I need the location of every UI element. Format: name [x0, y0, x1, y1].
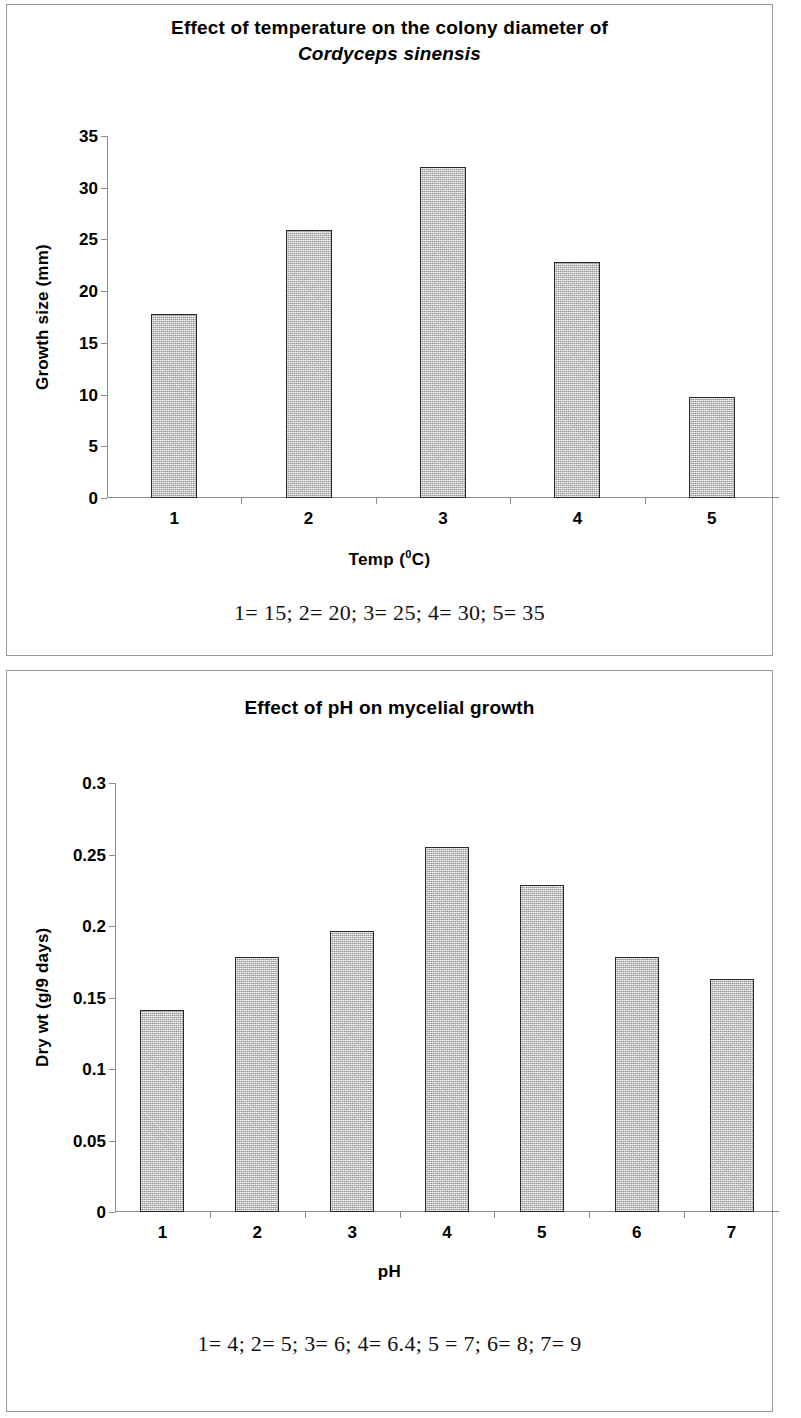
y-tick-label: 0 — [97, 1204, 106, 1221]
x-tick-mark — [305, 1212, 306, 1218]
x-tick-mark — [684, 1212, 685, 1218]
y-tick-label: 25 — [79, 231, 98, 248]
bar — [520, 885, 564, 1212]
x-tick-mark — [645, 498, 646, 504]
bar — [330, 931, 374, 1212]
y-axis-line — [115, 783, 116, 1212]
y-tick-label: 20 — [79, 283, 98, 300]
bar — [235, 957, 279, 1212]
y-tick-mark — [101, 291, 107, 292]
x-tick-mark — [400, 1212, 401, 1218]
y-tick-label: 5 — [89, 438, 98, 455]
y-axis-title-growth-size: Growth size (mm) — [33, 244, 53, 390]
x-tick-mark — [589, 1212, 590, 1218]
y-tick-mark — [109, 783, 115, 784]
y-tick-label: 0.2 — [82, 918, 106, 935]
y-tick-label: 35 — [79, 128, 98, 145]
y-tick-mark — [109, 1069, 115, 1070]
x-tick-label: 4 — [442, 1224, 451, 1241]
y-tick-mark — [101, 239, 107, 240]
y-tick-label: 30 — [79, 179, 98, 196]
y-tick-label: 15 — [79, 334, 98, 351]
chart-title-line1: Effect of temperature on the colony diam… — [171, 17, 608, 38]
x-tick-mark — [376, 498, 377, 504]
y-tick-mark — [109, 1212, 115, 1213]
y-tick-mark — [109, 1141, 115, 1142]
y-tick-mark — [109, 998, 115, 999]
y-axis-line — [107, 136, 108, 498]
x-tick-label: 6 — [632, 1224, 641, 1241]
bar — [286, 230, 332, 498]
x-tick-label: 3 — [347, 1224, 356, 1241]
bar — [554, 262, 600, 498]
y-tick-mark — [101, 498, 107, 499]
y-tick-mark — [101, 188, 107, 189]
y-tick-mark — [101, 446, 107, 447]
bar — [710, 979, 754, 1212]
caption-ph-legend: 1= 4; 2= 5; 3= 6; 4= 6.4; 5 = 7; 6= 8; 7… — [7, 1331, 772, 1357]
x-tick-mark — [510, 498, 511, 504]
y-tick-label: 0.25 — [73, 846, 106, 863]
plot-area-ph: 00.050.10.150.20.250.31234567 — [115, 783, 779, 1212]
x-axis-title-temp-tail: C) — [412, 550, 431, 569]
chart-title-species: Cordyceps sinensis — [298, 43, 481, 64]
x-tick-mark — [494, 1212, 495, 1218]
y-tick-mark — [101, 395, 107, 396]
bar — [425, 847, 469, 1212]
x-tick-label: 5 — [707, 510, 716, 527]
y-tick-label: 0.1 — [82, 1061, 106, 1078]
x-tick-label: 2 — [253, 1224, 262, 1241]
bar — [140, 1010, 184, 1212]
y-tick-label: 0.3 — [82, 775, 106, 792]
y-tick-label: 0.05 — [73, 1132, 106, 1149]
y-tick-mark — [101, 136, 107, 137]
y-tick-label: 0 — [89, 490, 98, 507]
x-tick-label: 2 — [304, 510, 313, 527]
y-tick-label: 10 — [79, 386, 98, 403]
x-tick-label: 1 — [169, 510, 178, 527]
x-tick-mark — [241, 498, 242, 504]
y-tick-label: 0.15 — [73, 989, 106, 1006]
x-tick-label: 4 — [573, 510, 582, 527]
bar — [689, 397, 735, 498]
plot-area-temperature: 0510152025303512345 — [107, 136, 779, 498]
x-tick-mark — [210, 1212, 211, 1218]
y-tick-mark — [101, 343, 107, 344]
bar — [151, 314, 197, 498]
bar — [615, 957, 659, 1212]
chart-title-temperature: Effect of temperature on the colony diam… — [7, 15, 772, 66]
caption-temperature-legend: 1= 15; 2= 20; 3= 25; 4= 30; 5= 35 — [7, 600, 772, 626]
y-tick-mark — [109, 855, 115, 856]
figure-panel-temperature: Effect of temperature on the colony diam… — [6, 4, 773, 656]
bar — [420, 167, 466, 498]
chart-title-ph: Effect of pH on mycelial growth — [7, 695, 772, 721]
figure-panel-ph: Effect of pH on mycelial growth Dry wt (… — [6, 670, 773, 1412]
x-tick-label: 7 — [727, 1224, 736, 1241]
x-tick-label: 3 — [438, 510, 447, 527]
x-tick-label: 5 — [537, 1224, 546, 1241]
y-tick-mark — [109, 926, 115, 927]
x-axis-title-temp: Temp (0C) — [7, 548, 772, 570]
x-axis-title-temp-base: Temp ( — [348, 550, 405, 569]
x-tick-label: 1 — [158, 1224, 167, 1241]
y-axis-title-dry-wt: Dry wt (g/9 days) — [33, 928, 53, 1067]
x-axis-title-ph: pH — [7, 1262, 772, 1282]
chart-title-ph-text: Effect of pH on mycelial growth — [244, 697, 534, 718]
